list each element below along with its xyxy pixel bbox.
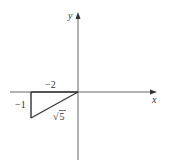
horizontal-leg-label: −2 (45, 79, 56, 90)
radicand: 5 (60, 111, 65, 122)
radical-sign: √ (53, 111, 59, 122)
vertical-leg-label: −1 (15, 99, 26, 110)
y-axis-label: y (67, 10, 73, 21)
y-axis-arrow-icon (76, 12, 81, 19)
x-axis-label: x (151, 94, 157, 105)
hypotenuse-label: √ 5 (53, 111, 66, 123)
coordinate-diagram: y x −2 −1 √ 5 (0, 0, 171, 168)
